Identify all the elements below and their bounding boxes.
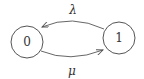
edge-1-to-0-arrow	[42, 21, 104, 29]
edge-label-mu: μ	[68, 64, 76, 78]
edge-label-lambda: λ	[68, 3, 77, 17]
edge-1-to-0: λ	[42, 3, 104, 29]
state-node-1: 1	[103, 22, 135, 54]
state-node-0-label: 0	[23, 35, 31, 49]
state-diagram: λ μ 0 1	[0, 0, 144, 79]
state-node-0: 0	[11, 26, 43, 58]
state-node-1-label: 1	[115, 31, 123, 45]
edge-0-to-1-arrow	[41, 50, 103, 57]
edge-0-to-1: μ	[41, 50, 103, 78]
